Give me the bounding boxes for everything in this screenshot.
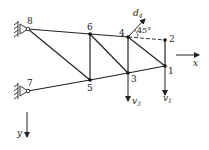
node-label-1: 1 (168, 66, 174, 76)
v1-label: v1 (163, 93, 172, 104)
v3-label: v3 (132, 96, 141, 107)
member-8-5 (28, 29, 90, 80)
member-5-3 (90, 73, 128, 80)
node-label-5: 5 (87, 83, 93, 93)
node-label-7: 7 (27, 78, 33, 88)
member-6-3 (90, 34, 128, 73)
member-4-1 (128, 37, 165, 66)
node-label-8: 8 (27, 16, 33, 26)
node-label-6: 6 (87, 22, 93, 32)
y-axis-label: y (16, 128, 23, 138)
member-8-6 (28, 29, 90, 34)
joint-2 (163, 38, 167, 42)
node-label-3: 3 (131, 74, 137, 84)
angle-label: 45° (137, 26, 151, 35)
member-3-1 (128, 66, 165, 73)
joint-5 (88, 78, 92, 82)
x-axis-label: x (193, 58, 198, 68)
truss-diagram: 8 7 6 5 4 3 2 1 d4 45° v3 v1 x y (0, 0, 209, 150)
node-label-4: 4 (119, 28, 125, 38)
joint-6 (88, 32, 92, 36)
d4-label: d4 (133, 8, 143, 19)
node-label-2: 2 (169, 34, 175, 44)
truss-members (28, 29, 165, 91)
member-7-5 (28, 80, 90, 91)
member-4-2 (128, 37, 165, 40)
